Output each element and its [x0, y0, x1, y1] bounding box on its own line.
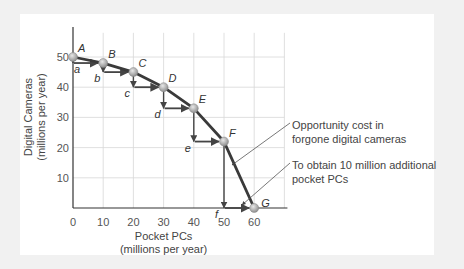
step-label: e [185, 142, 191, 154]
y-tick-label: 10 [57, 172, 69, 184]
x-tick-label: 60 [248, 216, 260, 228]
point-b [99, 59, 108, 68]
svg-text:(millions per year): (millions per year) [35, 73, 47, 160]
point-e [189, 104, 198, 113]
point-d [159, 83, 168, 92]
step-label: b [94, 72, 100, 84]
x-axis-label: Pocket PCs [135, 230, 193, 242]
y-tick-label: 20 [57, 142, 69, 154]
point-label: B [108, 48, 115, 60]
x-tick-label: 0 [70, 216, 76, 228]
x-tick-label: 40 [188, 216, 200, 228]
x-tick-label: 10 [97, 216, 109, 228]
point-label: F [229, 127, 237, 139]
step-label: d [155, 108, 162, 120]
point-a [69, 53, 78, 62]
tick-labels: 01020304050601020304050 [57, 51, 261, 228]
x-tick-label: 20 [127, 216, 139, 228]
step-label: a [74, 63, 80, 75]
point-f [220, 137, 229, 146]
ppf-points: ABCDEFG [69, 42, 271, 213]
y-tick-label: 50 [57, 51, 69, 63]
ppf-chart: 01020304050601020304050 abcdef ABCDEFG O… [0, 0, 464, 269]
point-label: A [77, 42, 85, 54]
x-tick-label: 50 [218, 216, 230, 228]
y-axis-label: Digital Cameras [22, 77, 34, 156]
point-label: G [261, 197, 270, 209]
svg-text:forgone digital cameras: forgone digital cameras [292, 133, 407, 145]
point-c [129, 68, 138, 77]
y-tick-label: 30 [57, 111, 69, 123]
point-label: C [138, 57, 146, 69]
y-tick-label: 40 [57, 81, 69, 93]
point-label: D [169, 72, 177, 84]
x-tick-label: 30 [157, 216, 169, 228]
annotation-additional-pcs: To obtain 10 million additional [292, 159, 436, 171]
annotations: Opportunity cost inforgone digital camer… [232, 119, 436, 205]
point-g [250, 204, 259, 213]
axis-labels: Pocket PCs(millions per year)Digital Cam… [22, 73, 207, 255]
point-label: E [199, 93, 207, 105]
svg-text:pocket PCs: pocket PCs [292, 173, 349, 185]
annotation-opportunity-cost: Opportunity cost in [292, 119, 384, 131]
step-label: c [124, 87, 130, 99]
svg-text:(millions per year): (millions per year) [120, 243, 207, 255]
